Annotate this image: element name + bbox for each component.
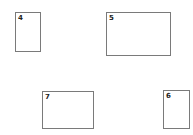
- box-5[interactable]: 5: [106, 12, 171, 56]
- box-label: 7: [45, 93, 50, 101]
- box-4[interactable]: 4: [15, 12, 41, 52]
- box-label: 6: [166, 92, 171, 100]
- box-6[interactable]: 6: [163, 90, 190, 129]
- box-label: 5: [109, 14, 114, 22]
- box-7[interactable]: 7: [42, 91, 94, 129]
- box-label: 4: [18, 14, 23, 22]
